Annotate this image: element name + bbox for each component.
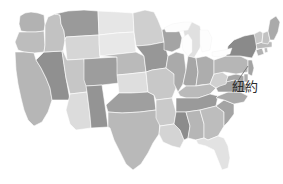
state-new-york bbox=[226, 34, 258, 58]
state-wyoming bbox=[65, 35, 100, 60]
annotation-label-new-york: 紐約 bbox=[232, 79, 258, 94]
state-washington bbox=[19, 12, 45, 32]
state-new-jersey bbox=[248, 60, 254, 76]
lake-huron-erie bbox=[200, 30, 212, 52]
state-oregon bbox=[15, 31, 45, 53]
state-minnesota bbox=[133, 10, 164, 46]
us-choropleth-map-figure: 紐約 bbox=[0, 0, 283, 184]
state-arizona bbox=[66, 92, 91, 130]
state-maine bbox=[268, 16, 280, 40]
state-arkansas bbox=[156, 98, 176, 126]
state-oklahoma bbox=[106, 92, 156, 113]
state-colorado bbox=[84, 57, 119, 86]
state-north-dakota bbox=[98, 11, 134, 35]
state-texas bbox=[108, 110, 160, 170]
state-florida bbox=[196, 136, 230, 170]
state-kansas bbox=[117, 72, 148, 93]
state-pennsylvania bbox=[214, 56, 248, 74]
